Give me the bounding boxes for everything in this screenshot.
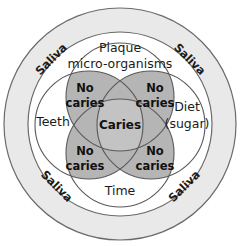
region-label-no-caries-top-right-line1: No [146,81,164,95]
set-label-teeth: Teeth [35,114,70,129]
region-label-no-caries-bottom-right-line1: No [146,144,164,158]
center-label-caries: Caries [99,118,141,132]
region-label-no-caries-bottom-right-line2: caries [136,159,175,173]
venn-diagram-canvas: Saliva Saliva Saliva Saliva Plaque micro… [0,0,240,246]
set-label-diet-line2: (sugar) [165,116,210,131]
set-label-plaque-line1: Plaque [99,40,142,55]
set-label-time: Time [104,183,136,198]
caries-venn-diagram: Saliva Saliva Saliva Saliva Plaque micro… [0,0,240,246]
region-label-no-caries-bottom-left-line2: caries [66,159,105,173]
region-label-no-caries-top-left-line1: No [76,81,94,95]
set-label-plaque-line2: micro-organisms [68,56,173,71]
region-label-no-caries-top-right-line2: caries [136,96,175,110]
region-label-no-caries-top-left-line2: caries [66,96,105,110]
region-label-no-caries-bottom-left-line1: No [76,144,94,158]
set-label-diet-line1: Diet [174,99,200,114]
